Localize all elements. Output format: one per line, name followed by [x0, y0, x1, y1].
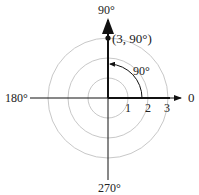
angle-label-180: 180°	[5, 91, 28, 105]
plotted-point	[105, 35, 110, 40]
angle-label-0: 0	[188, 90, 195, 105]
point-label: (3, 90°)	[112, 31, 152, 46]
angle-label-270: 270°	[98, 181, 121, 195]
angle-label-90: 90°	[98, 3, 115, 17]
polar-diagram: (3, 90°) 90° 0 90° 180° 270° 1 2 3	[0, 0, 199, 195]
radial-tick-1: 1	[125, 101, 131, 115]
radial-tick-3: 3	[164, 101, 170, 115]
angle-arc-label: 90°	[133, 64, 150, 78]
radial-tick-2: 2	[145, 101, 151, 115]
